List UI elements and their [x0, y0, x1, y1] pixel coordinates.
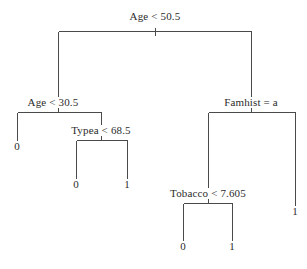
node-label-root: Age < 50.5 [129, 11, 182, 22]
leaf-label-typea-1: 1 [124, 179, 130, 190]
leaf-label-left-0: 0 [14, 141, 20, 152]
leaf-label-famhist-1: 1 [292, 206, 298, 217]
node-label-famhist: Famhist = a [223, 97, 279, 108]
node-label-tobacco: Tobacco < 7.605 [169, 188, 247, 199]
leaf-label-tobacco-0: 0 [180, 241, 186, 252]
leaf-label-tobacco-1: 1 [229, 241, 235, 252]
leaf-label-typea-0: 0 [73, 179, 79, 190]
decision-tree-figure: Age < 50.5 Age < 30.5 Famhist = a Typea … [0, 0, 307, 269]
tree-edges [0, 0, 307, 269]
node-label-typea: Typea < 68.5 [70, 125, 131, 136]
node-label-age30: Age < 30.5 [27, 97, 80, 108]
